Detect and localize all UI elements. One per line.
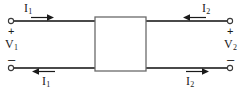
terminal-port1-positive bbox=[8, 18, 13, 23]
label-current-port1-bottom: I1 bbox=[42, 75, 50, 89]
label-voltage-port2: V2 bbox=[224, 38, 237, 52]
terminal-port2-positive bbox=[227, 18, 232, 23]
black-box-rectangle bbox=[95, 17, 146, 71]
label-polarity-negative-port2: – bbox=[227, 53, 234, 66]
label-current-port2-top: I2 bbox=[202, 2, 210, 16]
label-polarity-positive-port2: + bbox=[227, 26, 233, 37]
label-polarity-negative-port1: – bbox=[8, 53, 15, 66]
label-current-port1-top: I1 bbox=[24, 2, 32, 16]
current-arrow-port1-top bbox=[31, 14, 54, 21]
label-current-port2-bottom: I2 bbox=[186, 75, 194, 89]
label-polarity-positive-port1: + bbox=[8, 26, 14, 37]
label-voltage-port1: V1 bbox=[5, 38, 18, 52]
two-port-network-diagram: I1 + V1 – I1 I2 + V2 – I2 bbox=[0, 0, 242, 95]
